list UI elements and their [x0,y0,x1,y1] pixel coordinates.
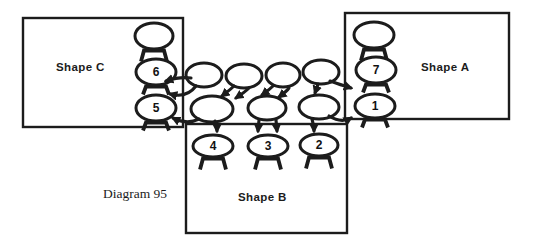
stool-number: 4 [210,139,217,153]
arrow-top3-to-mid2-b [279,88,289,97]
arrow-top3-to-mid2-a [262,86,273,95]
shape-c-label: Shape C [56,61,105,73]
stool-number: 2 [316,138,323,152]
stool-legs [362,120,388,128]
stool-number: 6 [153,65,160,79]
diagram-page: 6571432 Shape C Shape A Shape B Diagram … [0,0,533,251]
stool-free-mid-3 [299,95,339,119]
stool-3: 3 [248,135,288,170]
diagram-canvas: 6571432 [0,0,533,251]
stool-legs [255,159,281,170]
stool-number: 5 [153,101,160,115]
stool-legs [143,87,169,95]
stool-legs [363,85,389,93]
stool-legs [306,158,332,169]
arrow-top2-to-mid1-b [236,88,249,98]
shape-b-label: Shape B [238,191,287,203]
arrow-mid2-to-3-b [276,120,277,131]
arrow-mid3-to-1 [329,116,351,120]
stool-free-top-4 [303,60,339,84]
stool-ellipse [299,95,339,119]
stool-legs [200,159,226,170]
stool-c-top [135,23,173,62]
stool-7: 7 [356,57,396,93]
arrow-top4-to-7 [330,81,351,88]
stool-number: 1 [372,99,379,113]
stool-free-top-3 [266,63,300,87]
stool-1: 1 [355,94,395,128]
stool-ellipse [354,22,394,48]
stool-ellipse [186,63,222,87]
stool-6: 6 [136,59,176,95]
arrow-mid1-to-4 [215,121,217,131]
stool-free-top-2 [226,64,262,88]
arrow-mid3-to-2 [312,119,314,131]
stool-free-top-1 [186,63,222,87]
stool-4: 4 [193,135,233,170]
stool-ellipse [135,23,173,49]
arrow-mid2-to-3-a [258,120,259,131]
arrow-top2-to-mid1-a [222,86,234,96]
stool-number: 3 [265,139,272,153]
stool-a-top [354,22,394,61]
stool-ellipse [248,96,286,120]
stool-ellipse [266,63,300,87]
stool-ellipse [303,60,339,84]
stool-free-mid-2 [248,96,286,120]
arrow-top4-to-mid3 [315,84,318,93]
stool-number: 7 [373,63,380,77]
stool-2: 2 [300,134,338,169]
stool-5: 5 [136,95,176,131]
diagram-caption: Diagram 95 [103,186,167,202]
stool-ellipse [226,64,262,88]
shape-a-label: Shape A [421,61,469,73]
